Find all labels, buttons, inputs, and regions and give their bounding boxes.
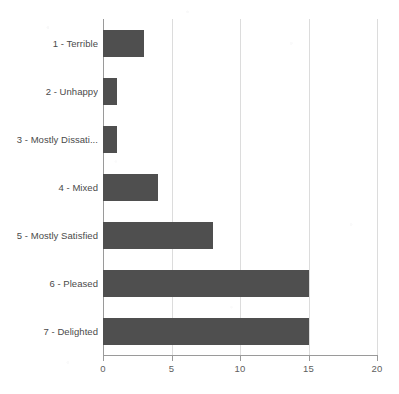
bar[interactable]: 15 (103, 270, 309, 297)
bar[interactable]: 1 (103, 126, 117, 153)
bar-chart: 1 - Terrible2 - Unhappy3 - Mostly Dissat… (0, 0, 399, 394)
tick-mark-10 (240, 356, 241, 361)
gridline-15 (309, 19, 310, 355)
bar[interactable]: 3 (103, 30, 144, 57)
category-label-4: 4 - Mixed (0, 182, 98, 193)
category-label-5: 5 - Mostly Satisfied (0, 230, 98, 241)
category-label-2: 2 - Unhappy (0, 86, 98, 97)
category-label-7: 7 - Delighted (0, 326, 98, 337)
tick-label-15: 15 (289, 363, 329, 374)
bar[interactable]: 8 (103, 222, 213, 249)
category-label-3: 3 - Mostly Dissati... (0, 134, 98, 145)
bar[interactable]: 1 (103, 78, 117, 105)
chart-title (0, 1, 399, 11)
bar[interactable]: 15 (103, 318, 309, 345)
tick-mark-0 (103, 356, 104, 361)
category-label-6: 6 - Pleased (0, 278, 98, 289)
tick-label-10: 10 (220, 363, 260, 374)
tick-mark-20 (377, 356, 378, 361)
gridline-10 (240, 19, 241, 355)
category-label-1: 1 - Terrible (0, 38, 98, 49)
tick-label-20: 20 (357, 363, 397, 374)
tick-mark-15 (309, 356, 310, 361)
tick-mark-5 (172, 356, 173, 361)
gridline-5 (172, 19, 173, 355)
bar[interactable]: 4 (103, 174, 158, 201)
gridline-20 (377, 19, 378, 355)
plot-area: 311481515 (103, 19, 377, 355)
tick-label-5: 5 (152, 363, 192, 374)
tick-label-0: 0 (83, 363, 123, 374)
